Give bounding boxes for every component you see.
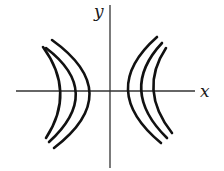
hyperbola-branch-left bbox=[43, 47, 60, 138]
curve-family bbox=[43, 37, 172, 148]
hyperbola-diagram: x y bbox=[0, 0, 224, 171]
x-axis-label: x bbox=[200, 81, 210, 101]
y-axis-label: y bbox=[93, 1, 104, 21]
